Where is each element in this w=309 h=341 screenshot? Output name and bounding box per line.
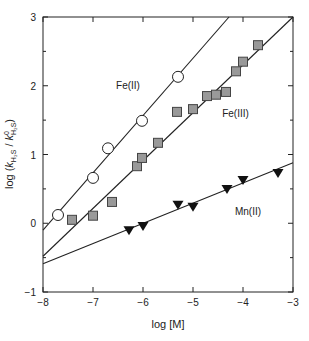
data-point-square <box>203 92 212 101</box>
y-tick-label: 3 <box>30 12 36 23</box>
series-mnii: Mn(II) <box>43 163 293 264</box>
data-point-square <box>154 138 163 147</box>
data-point-triangle <box>238 176 249 185</box>
data-point-circle <box>103 143 114 154</box>
data-point-triangle <box>188 203 199 212</box>
series-feiii: Fe(III) <box>43 17 293 256</box>
data-point-circle <box>173 71 184 82</box>
svg-text:log (kH₂S / k0H₂S): log (kH₂S / k0H₂S) <box>3 119 17 189</box>
x-axis-title: log [M] <box>151 318 184 330</box>
y-axis-title: log (kH₂S / k0H₂S) <box>3 119 17 189</box>
data-point-square <box>222 87 231 96</box>
data-point-square <box>239 57 248 66</box>
series-label: Mn(II) <box>235 206 261 217</box>
data-point-square <box>138 153 147 162</box>
data-point-square <box>89 211 98 220</box>
data-point-triangle <box>222 185 233 194</box>
series-label: Fe(III) <box>222 108 249 119</box>
x-tick-label: −8 <box>37 297 49 308</box>
y-tick-label: 1 <box>30 150 36 161</box>
data-point-circle <box>88 172 99 183</box>
plot-area: Fe(II)Fe(III)Mn(II) <box>43 17 293 264</box>
data-point-square <box>108 197 117 206</box>
data-point-square <box>173 107 182 116</box>
y-tick-label: −1 <box>25 287 37 298</box>
data-point-square <box>68 215 77 224</box>
x-axis: −8−7−6−5−4−3 <box>37 17 299 308</box>
data-point-triangle <box>138 222 149 231</box>
x-tick-label: −5 <box>187 297 199 308</box>
chart: Fe(II)Fe(III)Mn(II) −8−7−6−5−4−3 −10123 … <box>0 0 309 341</box>
data-point-square <box>232 67 241 76</box>
fit-line <box>43 17 229 230</box>
data-point-triangle <box>273 169 284 178</box>
x-tick-label: −7 <box>87 297 99 308</box>
data-point-square <box>189 105 198 114</box>
series-feii: Fe(II) <box>43 17 229 230</box>
plot-frame <box>43 17 293 292</box>
data-point-circle <box>53 210 64 221</box>
x-tick-label: −3 <box>287 297 299 308</box>
data-point-triangle <box>173 201 184 210</box>
data-point-square <box>133 162 142 171</box>
fit-line <box>43 17 293 256</box>
data-point-square <box>254 41 263 50</box>
y-tick-label: 2 <box>30 81 36 92</box>
data-point-square <box>212 90 221 99</box>
x-tick-label: −6 <box>137 297 149 308</box>
series-label: Fe(II) <box>116 80 140 91</box>
data-point-circle <box>137 115 148 126</box>
x-tick-label: −4 <box>237 297 249 308</box>
y-tick-label: 0 <box>30 218 36 229</box>
